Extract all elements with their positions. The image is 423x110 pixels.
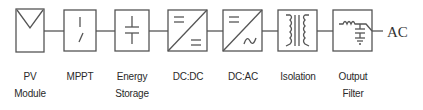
label-dc-dc: DC:DC [164, 68, 212, 85]
label-energy-storage: Energy Storage [110, 68, 154, 102]
block-isolation [278, 10, 317, 51]
block-energy-storage [115, 10, 149, 51]
block-dc-dc [168, 10, 207, 51]
capacitor-icon [125, 16, 139, 44]
label-output-filter: Output Filter [329, 68, 377, 102]
lc-filter-icon [339, 22, 372, 45]
pv-panel-icon [17, 10, 43, 28]
block-dc-ac [223, 10, 262, 51]
transformer-icon [286, 15, 309, 46]
dc-dc-converter-icon [168, 10, 207, 51]
label-mppt: MPPT [58, 68, 102, 85]
switch-icon [79, 17, 83, 42]
block-output-filter [333, 10, 372, 51]
label-dc-ac: DC:AC [219, 68, 267, 85]
ac-output-label: AC [387, 24, 408, 41]
block-pv-module [16, 9, 44, 52]
label-pv-module: PV Module [10, 68, 50, 102]
block-mppt [64, 10, 96, 51]
inverter-icon [223, 10, 262, 51]
label-isolation: Isolation [274, 68, 322, 85]
